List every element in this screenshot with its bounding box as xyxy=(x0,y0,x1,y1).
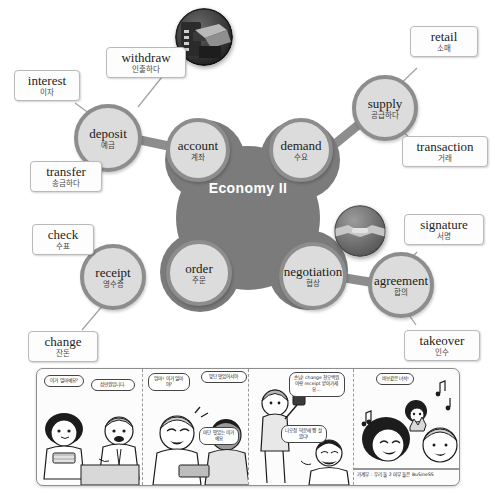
node-label-en: account xyxy=(178,139,218,152)
caption-text: 가계부 : 우리 둘 2 마무 둘은 BuSineSS xyxy=(357,472,434,477)
speech-bubble: 나오정 덕분에 쨍 살았다! xyxy=(281,425,327,443)
node-label-ko: 협상 xyxy=(306,280,320,288)
node-label-en: agreement xyxy=(374,274,428,287)
node-label-ko: 수요 xyxy=(294,154,308,162)
node-label-ko: 영수증 xyxy=(103,281,124,289)
label-en: withdraw xyxy=(113,51,179,65)
node-demand[interactable]: demand 수요 xyxy=(269,118,333,182)
label-retail[interactable]: retail 소매 xyxy=(410,26,478,57)
label-ko: 인출하다 xyxy=(113,66,179,74)
node-label-en: negotiation xyxy=(284,265,343,278)
comic-panel-2: 엄마! 이거 얼마야? 맞단 맛있어서야 마단 맛있는 이거예요 xyxy=(143,369,249,485)
panel-4-art xyxy=(354,369,459,485)
label-signature[interactable]: signature 서명 xyxy=(404,214,484,245)
comic-strip: 이거 얼마예요? 삼만원입니다. 엄마! 이거 얼마야? 맞단 맛있어서야 xyxy=(36,368,460,486)
label-change[interactable]: change 잔돈 xyxy=(28,331,98,362)
label-en: takeover xyxy=(411,334,473,348)
speech-bubble: 이거 얼마예요? xyxy=(44,375,84,387)
label-en: interest xyxy=(21,74,73,88)
node-label-ko: 주문 xyxy=(192,277,206,285)
node-label-en: demand xyxy=(280,139,321,152)
speech-bubble: 손님! change 천오백원이랑 receipt 받아가세요... xyxy=(289,372,345,397)
label-interest[interactable]: interest 이자 xyxy=(14,70,80,101)
node-label-en: supply xyxy=(368,97,403,110)
label-ko: 수표 xyxy=(39,243,87,251)
label-ko: 송금하다 xyxy=(37,180,95,188)
comic-panel-4: 바보같은 녀석! 가계부 : 우리 둘 2 마무 둘은 BuSineSS xyxy=(354,369,459,485)
label-ko: 인수 xyxy=(411,349,473,357)
comic-caption: 가계부 : 우리 둘 2 마무 둘은 BuSineSS xyxy=(357,471,459,477)
node-account[interactable]: account 계좌 xyxy=(166,118,230,182)
center-title: Economy II xyxy=(209,180,288,196)
bubble-text: 맞단 맛있어서야 xyxy=(209,374,238,379)
label-transfer[interactable]: transfer 송금하다 xyxy=(30,161,102,192)
label-ko: 거래 xyxy=(409,155,481,163)
handshake-photo xyxy=(334,205,386,257)
bubble-text: 엄마! 이거 얼마야? xyxy=(154,376,183,387)
label-withdraw[interactable]: withdraw 인출하다 xyxy=(106,47,186,78)
node-agreement[interactable]: agreement 합의 xyxy=(368,252,434,318)
bubble-text: 삼만원입니다. xyxy=(100,382,125,387)
label-check[interactable]: check 수표 xyxy=(32,224,94,255)
bubble-text: 손님! change 천오백원이랑 receipt 받아가세요... xyxy=(294,375,340,392)
label-takeover[interactable]: takeover 인수 xyxy=(404,330,480,361)
node-label-ko: 예금 xyxy=(101,142,115,150)
label-ko: 이자 xyxy=(21,89,73,97)
node-negotiation[interactable]: negotiation 협상 xyxy=(279,242,347,310)
node-label-ko: 계좌 xyxy=(191,154,205,162)
label-en: signature xyxy=(411,218,477,232)
label-ko: 잔돈 xyxy=(35,350,91,358)
bubble-text: 이거 얼마예요? xyxy=(50,378,78,383)
label-ko: 서명 xyxy=(411,233,477,241)
bubble-text: 나오정 덕분에 쨍 살았다! xyxy=(285,428,321,439)
label-ko: 소매 xyxy=(417,45,471,53)
node-supply[interactable]: supply 공급하다 xyxy=(352,75,418,141)
node-label-en: order xyxy=(185,262,212,275)
node-order[interactable]: order 주문 xyxy=(166,240,232,306)
comic-panel-1: 이거 얼마예요? 삼만원입니다. xyxy=(37,369,143,485)
mindmap-diagram: Economy II deposit 예금 account 계좌 demand … xyxy=(0,0,495,370)
bubble-text: 마단 맛있는 이거예요 xyxy=(203,430,234,441)
label-en: check xyxy=(39,228,87,242)
speech-bubble: 마단 맛있는 이거예요 xyxy=(199,427,239,445)
speech-bubble: 바보같은 녀석! xyxy=(376,373,414,385)
label-en: retail xyxy=(417,30,471,44)
label-en: change xyxy=(35,335,91,349)
node-label-en: deposit xyxy=(89,127,127,140)
handshake-photo-art xyxy=(334,205,386,257)
label-en: transfer xyxy=(37,165,95,179)
node-label-en: receipt xyxy=(95,266,130,279)
speech-bubble: 맞단 맛있어서야 xyxy=(201,371,247,383)
node-label-ko: 공급하다 xyxy=(371,112,399,120)
label-en: transaction xyxy=(409,140,481,154)
label-transaction[interactable]: transaction 거래 xyxy=(402,136,488,167)
bubble-text: 바보같은 녀석! xyxy=(382,376,409,381)
speech-bubble: 삼만원입니다. xyxy=(91,379,135,391)
node-label-ko: 합의 xyxy=(394,289,408,297)
speech-bubble: 엄마! 이거 얼마야? xyxy=(148,373,190,391)
comic-panel-3: 손님! change 천오백원이랑 receipt 받아가세요... 나오정 덕… xyxy=(249,369,355,485)
